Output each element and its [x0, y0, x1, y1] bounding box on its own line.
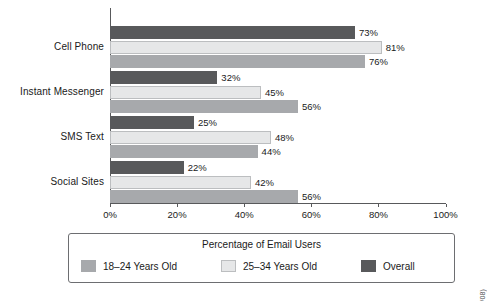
- bar: [110, 55, 365, 68]
- x-axis-tick-label: 40%: [235, 209, 254, 220]
- x-axis-tick: [244, 204, 245, 207]
- x-axis-tick: [177, 204, 178, 207]
- x-axis-tick-label: 20%: [168, 209, 187, 220]
- x-axis-tick: [311, 204, 312, 207]
- category-label: SMS Text: [0, 131, 104, 142]
- plot-area: Cell PhoneInstant MessengerSMS TextSocia…: [0, 8, 460, 213]
- source-note: Source: JupiterResearch/NPD Consumer Sur…: [479, 289, 486, 301]
- bar-value-label: 73%: [359, 26, 378, 39]
- bar: [110, 190, 298, 203]
- category-label: Cell Phone: [0, 41, 104, 52]
- x-axis-tick-label: 0%: [103, 209, 117, 220]
- bar: [110, 116, 194, 129]
- bar-value-label: 48%: [275, 131, 294, 144]
- bar-value-label: 81%: [386, 41, 405, 54]
- x-axis-tick-label: 60%: [302, 209, 321, 220]
- category-label: Instant Messenger: [0, 86, 104, 97]
- bar: [110, 71, 217, 84]
- bar: [110, 145, 258, 158]
- bar-value-label: 42%: [255, 176, 274, 189]
- bar: [110, 26, 355, 39]
- chart-figure: Cell PhoneInstant MessengerSMS TextSocia…: [0, 0, 487, 301]
- bar-value-label: 56%: [302, 190, 321, 203]
- legend-label: 25–34 Years Old: [243, 261, 317, 272]
- legend-swatch: [221, 260, 236, 272]
- legend-swatch: [361, 260, 376, 272]
- bar: [110, 86, 261, 99]
- bar: [110, 161, 184, 174]
- legend-label: Overall: [383, 261, 415, 272]
- bar-value-label: 56%: [302, 100, 321, 113]
- legend-item: Overall: [361, 258, 415, 274]
- bar-value-label: 22%: [188, 161, 207, 174]
- x-axis-tick: [110, 204, 111, 207]
- category-label: Social Sites: [0, 176, 104, 187]
- x-axis-tick: [378, 204, 379, 207]
- category-axis-labels: Cell PhoneInstant MessengerSMS TextSocia…: [0, 8, 104, 204]
- bar: [110, 176, 251, 189]
- bar-value-label: 45%: [265, 86, 284, 99]
- bar-value-label: 25%: [198, 116, 217, 129]
- chart-legend: Percentage of Email Users 18–24 Years Ol…: [68, 233, 455, 283]
- x-axis-tick: [446, 204, 447, 207]
- x-axis-tick-label: 80%: [369, 209, 388, 220]
- x-axis-tick-label: 100%: [433, 209, 457, 220]
- legend-title: Percentage of Email Users: [69, 239, 454, 250]
- bars-container: 73%81%76%32%45%56%25%48%44%22%42%56%: [110, 8, 460, 204]
- legend-swatch: [81, 260, 96, 272]
- bar: [110, 41, 382, 54]
- bar-value-label: 44%: [262, 145, 281, 158]
- bar: [110, 100, 298, 113]
- legend-item: 18–24 Years Old: [81, 258, 177, 274]
- legend-label: 18–24 Years Old: [103, 261, 177, 272]
- bar-value-label: 76%: [369, 55, 388, 68]
- bar: [110, 131, 271, 144]
- bar-value-label: 32%: [221, 71, 240, 84]
- legend-item: 25–34 Years Old: [221, 258, 317, 274]
- legend-items: 18–24 Years Old25–34 Years OldOverall: [69, 258, 454, 278]
